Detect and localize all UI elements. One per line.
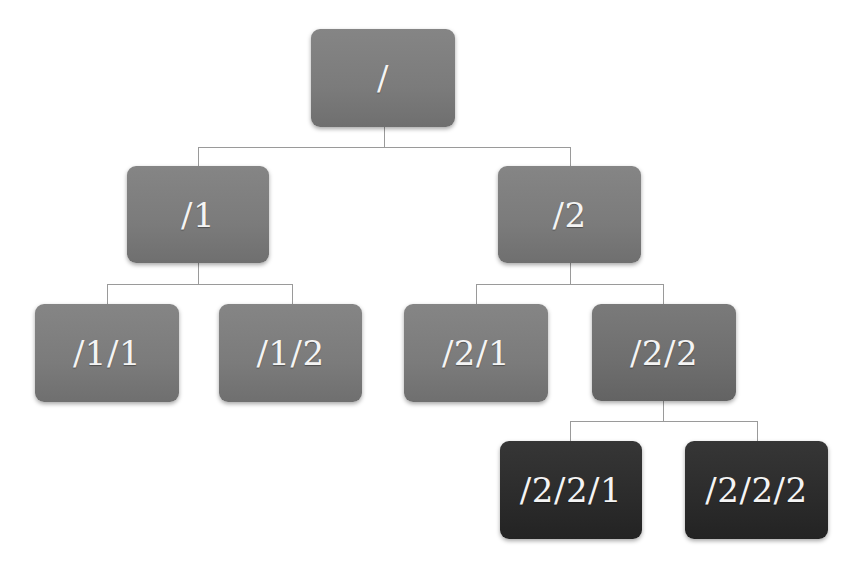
node-2-1-label: /2/1	[442, 336, 510, 370]
node-1-2: /1/2	[219, 304, 362, 402]
connector-n2-bar	[476, 284, 663, 285]
node-2-2: /2/2	[592, 304, 736, 401]
connector-to-n222	[757, 421, 758, 441]
connector-to-n221	[570, 421, 571, 441]
connector-n22-bar	[570, 421, 757, 422]
node-1-2-label: /1/2	[256, 336, 324, 370]
node-root: /	[311, 29, 455, 127]
connector-n2-down	[570, 263, 571, 284]
connector-n1-down	[198, 263, 199, 284]
node-2: /2	[498, 166, 641, 263]
connector-n1-bar	[107, 284, 292, 285]
node-2-2-1: /2/2/1	[500, 441, 642, 539]
node-2-2-2-label: /2/2/2	[705, 473, 807, 507]
connector-n22-down	[663, 401, 664, 421]
connector-to-n2	[570, 147, 571, 166]
connector-to-n1	[198, 147, 199, 166]
connector-to-n11	[107, 284, 108, 304]
node-2-2-1-label: /2/2/1	[520, 473, 622, 507]
node-2-2-2: /2/2/2	[685, 441, 828, 539]
node-1: /1	[127, 166, 269, 263]
connector-to-n22	[663, 284, 664, 304]
connector-to-n21	[476, 284, 477, 304]
node-1-label: /1	[181, 198, 215, 232]
node-2-1: /2/1	[404, 304, 548, 402]
connector-level1-bar	[198, 147, 570, 148]
node-1-1-label: /1/1	[73, 336, 141, 370]
node-2-2-label: /2/2	[630, 336, 698, 370]
connector-to-n12	[292, 284, 293, 304]
connector-root-down	[384, 127, 385, 147]
node-2-label: /2	[552, 198, 586, 232]
node-root-label: /	[377, 61, 389, 95]
node-1-1: /1/1	[35, 304, 179, 402]
